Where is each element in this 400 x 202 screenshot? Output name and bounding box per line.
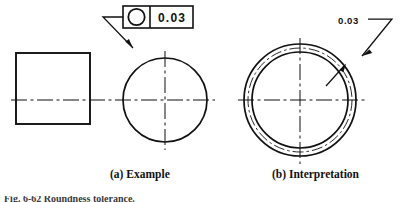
caption-example: (a) Example	[110, 168, 170, 180]
bottom-cutoff-text: Fig. 6-62 Roundness tolerance.	[4, 196, 400, 202]
feature-control-frame[interactable]: 0.03	[123, 6, 193, 28]
caption-interpretation: (b) Interpretation	[272, 168, 359, 180]
bottom-cutoff-text-strip: Fig. 6-62 Roundness tolerance.	[0, 196, 400, 202]
interpretation-tolerance-label: 0.03	[338, 15, 359, 26]
fcf-tolerance-value: 0.03	[158, 11, 186, 25]
